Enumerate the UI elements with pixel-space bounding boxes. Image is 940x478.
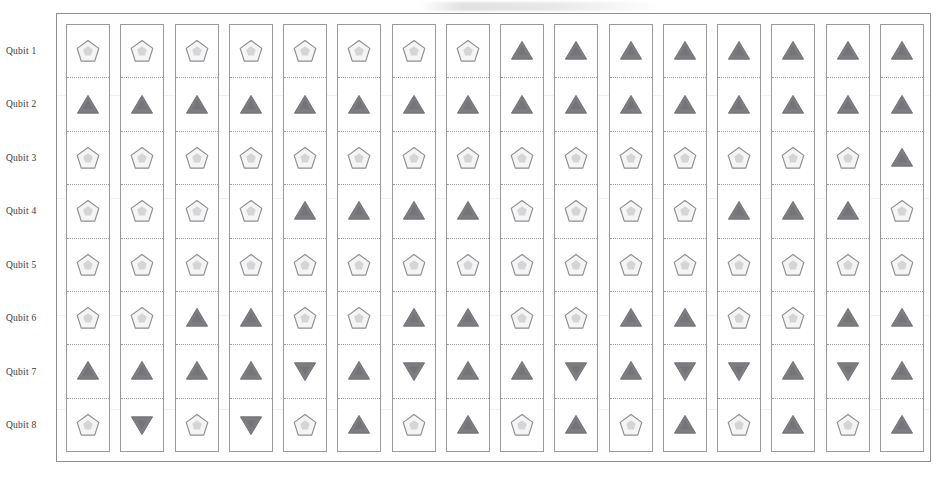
gate-cell-q8-t4[interactable] [230, 399, 272, 451]
gate-cell-q1-t14[interactable] [772, 25, 814, 78]
gate-cell-q1-t4[interactable] [230, 25, 272, 78]
gate-cell-q2-t13[interactable] [718, 78, 760, 131]
gate-cell-q7-t8[interactable] [447, 345, 489, 398]
gate-cell-q5-t9[interactable] [501, 239, 543, 292]
gate-cell-q1-t12[interactable] [664, 25, 706, 78]
gate-column-1[interactable] [66, 24, 110, 452]
gate-cell-q6-t9[interactable] [501, 292, 543, 345]
gate-cell-q1-t9[interactable] [501, 25, 543, 78]
gate-cell-q1-t3[interactable] [176, 25, 218, 78]
gate-cell-q4-t16[interactable] [881, 185, 923, 238]
gate-cell-q7-t4[interactable] [230, 345, 272, 398]
gate-cell-q2-t1[interactable] [67, 78, 109, 131]
gate-cell-q4-t6[interactable] [338, 185, 380, 238]
gate-cell-q8-t9[interactable] [501, 399, 543, 451]
gate-cell-q2-t2[interactable] [121, 78, 163, 131]
gate-column-14[interactable] [771, 24, 815, 452]
gate-cell-q6-t7[interactable] [393, 292, 435, 345]
gate-cell-q7-t10[interactable] [555, 345, 597, 398]
gate-cell-q4-t11[interactable] [610, 185, 652, 238]
gate-cell-q7-t16[interactable] [881, 345, 923, 398]
gate-cell-q4-t15[interactable] [827, 185, 869, 238]
gate-cell-q3-t1[interactable] [67, 132, 109, 185]
gate-cell-q4-t7[interactable] [393, 185, 435, 238]
gate-cell-q6-t16[interactable] [881, 292, 923, 345]
gate-cell-q8-t3[interactable] [176, 399, 218, 451]
gate-cell-q2-t3[interactable] [176, 78, 218, 131]
gate-cell-q6-t1[interactable] [67, 292, 109, 345]
gate-cell-q6-t14[interactable] [772, 292, 814, 345]
gate-cell-q2-t9[interactable] [501, 78, 543, 131]
gate-cell-q3-t10[interactable] [555, 132, 597, 185]
gate-cell-q8-t12[interactable] [664, 399, 706, 451]
gate-cell-q3-t8[interactable] [447, 132, 489, 185]
gate-cell-q2-t15[interactable] [827, 78, 869, 131]
gate-column-12[interactable] [663, 24, 707, 452]
gate-cell-q2-t14[interactable] [772, 78, 814, 131]
gate-cell-q8-t11[interactable] [610, 399, 652, 451]
gate-cell-q2-t10[interactable] [555, 78, 597, 131]
gate-cell-q6-t6[interactable] [338, 292, 380, 345]
gate-column-13[interactable] [717, 24, 761, 452]
gate-cell-q8-t14[interactable] [772, 399, 814, 451]
gate-cell-q4-t14[interactable] [772, 185, 814, 238]
gate-cell-q2-t7[interactable] [393, 78, 435, 131]
gate-cell-q4-t4[interactable] [230, 185, 272, 238]
gate-cell-q5-t7[interactable] [393, 239, 435, 292]
gate-cell-q3-t3[interactable] [176, 132, 218, 185]
gate-cell-q6-t12[interactable] [664, 292, 706, 345]
gate-cell-q8-t8[interactable] [447, 399, 489, 451]
gate-cell-q7-t5[interactable] [284, 345, 326, 398]
gate-cell-q3-t5[interactable] [284, 132, 326, 185]
gate-cell-q5-t11[interactable] [610, 239, 652, 292]
gate-column-6[interactable] [337, 24, 381, 452]
gate-cell-q6-t13[interactable] [718, 292, 760, 345]
gate-cell-q6-t15[interactable] [827, 292, 869, 345]
gate-column-2[interactable] [120, 24, 164, 452]
gate-cell-q7-t14[interactable] [772, 345, 814, 398]
gate-cell-q3-t13[interactable] [718, 132, 760, 185]
gate-cell-q2-t8[interactable] [447, 78, 489, 131]
gate-cell-q5-t3[interactable] [176, 239, 218, 292]
gate-cell-q6-t11[interactable] [610, 292, 652, 345]
gate-column-9[interactable] [500, 24, 544, 452]
gate-cell-q4-t10[interactable] [555, 185, 597, 238]
gate-cell-q6-t5[interactable] [284, 292, 326, 345]
gate-cell-q7-t3[interactable] [176, 345, 218, 398]
gate-cell-q8-t13[interactable] [718, 399, 760, 451]
gate-cell-q7-t7[interactable] [393, 345, 435, 398]
gate-cell-q8-t1[interactable] [67, 399, 109, 451]
gate-cell-q4-t12[interactable] [664, 185, 706, 238]
gate-cell-q4-t5[interactable] [284, 185, 326, 238]
gate-cell-q7-t1[interactable] [67, 345, 109, 398]
gate-cell-q8-t6[interactable] [338, 399, 380, 451]
gate-cell-q3-t16[interactable] [881, 132, 923, 185]
gate-cell-q5-t15[interactable] [827, 239, 869, 292]
gate-cell-q3-t12[interactable] [664, 132, 706, 185]
gate-cell-q8-t15[interactable] [827, 399, 869, 451]
gate-cell-q7-t6[interactable] [338, 345, 380, 398]
gate-cell-q3-t15[interactable] [827, 132, 869, 185]
gate-cell-q5-t1[interactable] [67, 239, 109, 292]
gate-cell-q5-t14[interactable] [772, 239, 814, 292]
gate-cell-q4-t8[interactable] [447, 185, 489, 238]
gate-cell-q5-t16[interactable] [881, 239, 923, 292]
gate-cell-q6-t3[interactable] [176, 292, 218, 345]
gate-cell-q5-t12[interactable] [664, 239, 706, 292]
gate-cell-q1-t7[interactable] [393, 25, 435, 78]
gate-cell-q1-t10[interactable] [555, 25, 597, 78]
gate-cell-q7-t2[interactable] [121, 345, 163, 398]
gate-cell-q3-t7[interactable] [393, 132, 435, 185]
gate-cell-q2-t11[interactable] [610, 78, 652, 131]
gate-cell-q1-t16[interactable] [881, 25, 923, 78]
gate-cell-q7-t12[interactable] [664, 345, 706, 398]
gate-cell-q6-t8[interactable] [447, 292, 489, 345]
gate-cell-q2-t6[interactable] [338, 78, 380, 131]
gate-cell-q2-t12[interactable] [664, 78, 706, 131]
gate-column-7[interactable] [392, 24, 436, 452]
gate-cell-q4-t9[interactable] [501, 185, 543, 238]
gate-cell-q5-t10[interactable] [555, 239, 597, 292]
gate-cell-q6-t10[interactable] [555, 292, 597, 345]
gate-column-4[interactable] [229, 24, 273, 452]
gate-cell-q1-t5[interactable] [284, 25, 326, 78]
